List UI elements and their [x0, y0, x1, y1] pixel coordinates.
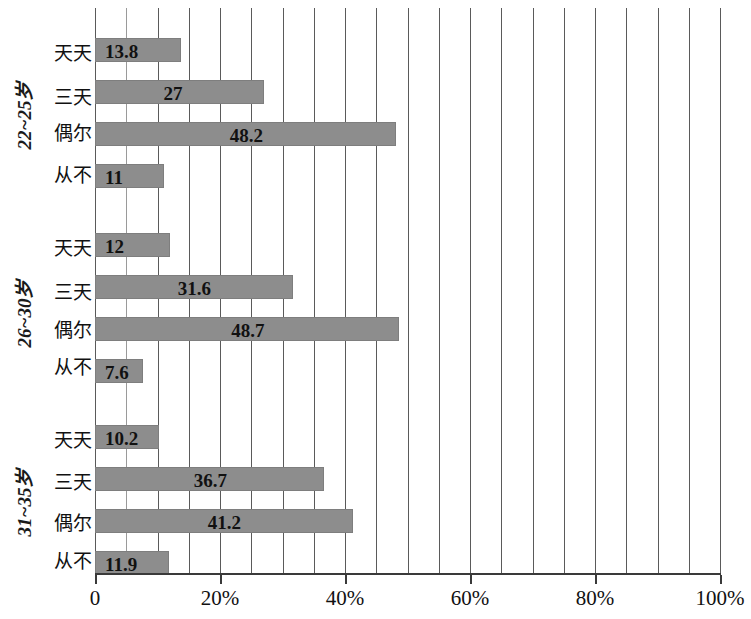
gridline-60 — [470, 8, 471, 573]
plot-area: 13.82748.2111231.648.77.610.236.741.211.… — [95, 8, 720, 573]
bar-value-label: 12 — [105, 237, 124, 256]
category-label-g0-c1: 三天 — [40, 88, 92, 107]
bar-value-label: 7.6 — [105, 363, 129, 382]
gridline-55 — [439, 8, 440, 573]
category-label-g2-c3: 从不 — [40, 552, 92, 571]
category-label-g0-c0: 天天 — [40, 44, 92, 63]
bar-value-label: 13.8 — [105, 42, 138, 61]
bar-value-label: 41.2 — [208, 513, 241, 532]
category-label-g2-c2: 偶尔 — [40, 514, 92, 533]
gridline-70 — [533, 8, 534, 573]
category-label-g1-c0: 天天 — [40, 239, 92, 258]
x-tick-20 — [220, 575, 222, 584]
x-tick-label-0: 0 — [90, 586, 101, 611]
x-tick-label-80: 80% — [576, 586, 615, 611]
bar-value-label: 10.2 — [105, 429, 138, 448]
category-label-g1-c2: 偶尔 — [40, 321, 92, 340]
category-label-g2-c1: 三天 — [40, 473, 92, 492]
gridline-100 — [720, 8, 721, 573]
x-tick-60 — [470, 575, 472, 584]
gridline-40 — [345, 8, 346, 573]
gridline-65 — [501, 8, 502, 573]
gridline-95 — [689, 8, 690, 573]
horizontal-bar-chart: 22~25岁 26~30岁 31~35岁 天天 三天 偶尔 从不 天天 三天 偶… — [0, 0, 751, 619]
x-tick-label-100: 100% — [696, 586, 745, 611]
category-label-g1-c1: 三天 — [40, 283, 92, 302]
x-tick-label-40: 40% — [326, 586, 365, 611]
bar-value-label: 31.6 — [178, 279, 211, 298]
gridline-45 — [376, 8, 377, 573]
gridline-75 — [564, 8, 565, 573]
category-label-g0-c2: 偶尔 — [40, 124, 92, 143]
category-label-g2-c0: 天天 — [40, 431, 92, 450]
x-tick-label-20: 20% — [201, 586, 240, 611]
gridline-90 — [658, 8, 659, 573]
x-tick-80 — [595, 575, 597, 584]
bar-value-label: 11.9 — [105, 555, 137, 574]
x-tick-label-60: 60% — [451, 586, 490, 611]
bar-value-label: 48.7 — [231, 321, 264, 340]
bar-value-label: 11 — [105, 168, 123, 187]
gridline-50 — [408, 8, 409, 573]
x-tick-100 — [720, 575, 722, 584]
category-label-g0-c3: 从不 — [40, 166, 92, 185]
gridline-85 — [626, 8, 627, 573]
group-label-text: 26~30岁 — [10, 279, 37, 347]
group-label-text: 22~25岁 — [10, 81, 37, 149]
x-axis-line — [95, 573, 721, 575]
x-tick-0 — [95, 575, 97, 584]
group-label-text: 31~35岁 — [10, 469, 37, 537]
category-label-g1-c3: 从不 — [40, 358, 92, 377]
bar-value-label: 48.2 — [230, 126, 263, 145]
bar-value-label: 27 — [163, 84, 182, 103]
x-tick-40 — [345, 575, 347, 584]
gridline-80 — [595, 8, 596, 573]
bar-value-label: 36.7 — [194, 471, 227, 490]
